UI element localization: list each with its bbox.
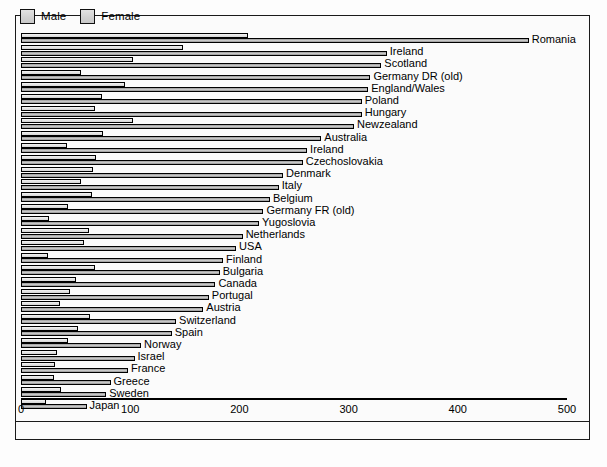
bar-pair: Canada [21,277,567,289]
bar-pair: Finland [21,253,567,265]
bar-female [21,314,90,319]
category-label: Australia [321,132,367,143]
bar-pair: Austria [21,301,567,313]
category-label: Greece [111,376,150,387]
bar-male [21,173,283,178]
bar-pair: Germany FR (old) [21,204,567,216]
category-label: Romania [529,34,576,45]
bar-male [21,136,321,141]
category-label: USA [236,241,262,252]
bar-male [21,368,128,373]
bar-female [21,228,89,233]
bar-female [21,118,133,123]
bar-male [21,112,362,117]
x-tick-label: 0 [18,404,24,415]
bar-male [21,99,362,104]
bar-female [21,326,78,331]
bar-female [21,179,81,184]
bar-male [21,234,243,239]
category-label: Finland [223,254,262,265]
bar-pair: France [21,362,567,374]
bar-pair: Greece [21,375,567,387]
category-label: Germany DR (old) [370,71,462,82]
bar-female [21,33,248,38]
bar-pair: Bulgaria [21,265,567,277]
bar-pair: Poland [21,94,567,106]
bar-male [21,307,203,312]
bar-pair: Israel [21,350,567,362]
bar-female [21,143,67,148]
bar-female [21,82,125,87]
legend-swatch-male-icon [20,9,35,24]
bar-female [21,362,55,367]
category-label: Newzealand [354,119,418,130]
bar-male [21,209,263,214]
bar-female [21,131,103,136]
category-label: Hungary [362,107,407,118]
bar-female [21,57,133,62]
bar-male [21,148,307,153]
bar-pair: USA [21,240,567,252]
category-label: Israel [135,351,165,362]
bar-pair: Yugoslovia [21,216,567,228]
x-tick-label: 200 [230,404,248,415]
bar-male [21,63,381,68]
bar-pair: Czechoslovakia [21,155,567,167]
legend-item-male: Male [20,9,66,24]
category-label: Italy [279,180,302,191]
x-tick-label: 400 [449,404,467,415]
bar-female [21,216,49,221]
bar-female [21,375,54,380]
bar-female [21,350,57,355]
bar-female [21,338,68,343]
bar-pair: Belgium [21,192,567,204]
bar-male [21,319,176,324]
category-label: Portugal [209,290,253,301]
bar-male [21,343,141,348]
bar-female [21,155,96,160]
category-label: England/Wales [368,83,445,94]
bar-pair: Germany DR (old) [21,70,567,82]
x-tick-label: 100 [121,404,139,415]
bar-female [21,289,70,294]
bar-male [21,392,106,397]
category-label: Bulgaria [220,266,263,277]
bar-pair: Netherlands [21,228,567,240]
category-label: Scotland [381,58,427,69]
legend-label-male: Male [41,11,66,23]
bar-female [21,204,68,209]
bar-male [21,124,354,129]
category-label: Switzerland [176,315,236,326]
bar-male [21,87,368,92]
bar-female [21,94,102,99]
bar-female [21,387,61,392]
bar-pair: Portugal [21,289,567,301]
chart-legend: Male Female [20,9,140,24]
bar-pair: Ireland [21,45,567,57]
category-label: Spain [172,327,203,338]
footer-divider [15,421,590,422]
bar-female [21,192,92,197]
x-axis-ticks: 0100200300400500 [21,404,567,420]
category-label: Ireland [307,144,344,155]
category-label: Czechoslovakia [303,156,383,167]
plot-area: RomaniaIrelandScotlandGermany DR (old)En… [21,33,567,399]
category-label: Yugoslovia [259,217,315,228]
bar-male [21,380,111,385]
bar-male [21,185,279,190]
category-label: Denmark [283,168,331,179]
bar-female [21,106,95,111]
category-label: Poland [362,95,399,106]
category-label: Netherlands [243,229,305,240]
x-tick-label: 500 [558,404,576,415]
bar-male [21,331,172,336]
bar-male [21,270,220,275]
bar-male [21,75,370,80]
bar-pair: Norway [21,338,567,350]
bar-female [21,70,81,75]
bar-pair: Scotland [21,57,567,69]
bar-pair: Newzealand [21,118,567,130]
category-label: Canada [215,278,257,289]
category-label: Germany FR (old) [263,205,354,216]
legend-item-female: Female [80,9,140,24]
